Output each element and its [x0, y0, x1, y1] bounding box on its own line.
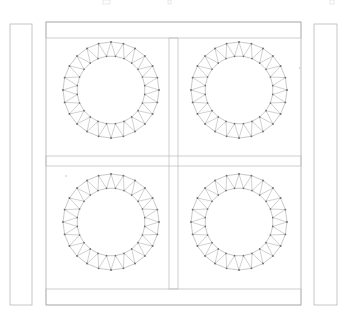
truss-ring-bottom-left-web-a-19 [65, 209, 80, 210]
truss-ring-bottom-left-inner-node-1 [123, 190, 125, 192]
truss-ring-top-right-web-b-6 [273, 86, 287, 90]
truss-ring-bottom-right-outer-node-7 [284, 233, 286, 235]
truss-ring-top-left-web-a-13 [98, 121, 99, 136]
truss-ring-bottom-right-web-a-10 [252, 253, 263, 263]
truss-ring-bottom-left-inner-node-8 [137, 242, 139, 244]
truss-ring-top-right-inner-node-18 [204, 85, 206, 87]
truss-ring-bottom-right-inner-node-2 [259, 194, 261, 196]
truss-ring-bottom-left-inner-node-17 [76, 226, 78, 228]
truss-ring-bottom-left-inner-node-12 [106, 255, 108, 257]
truss-ring-top-left-web-b-2 [124, 48, 135, 58]
truss-ring-top-right-outer-node-8 [280, 113, 282, 115]
truss-ring-bottom-left-web-b-20 [69, 198, 79, 209]
truss-ring-bottom-right-outer-node-19 [192, 209, 194, 211]
truss-ring-top-left-inner-node-13 [97, 121, 99, 123]
truss-ring-bottom-left-inner-node-4 [142, 208, 144, 210]
truss-ring-top-right-web-b-23 [226, 44, 227, 59]
truss-ring-top-left-outer-node-13 [98, 135, 100, 137]
truss-ring-top-left-inner-node-15 [83, 110, 85, 112]
truss-ring-top-left-web-a-16 [69, 103, 79, 114]
truss-ring-bottom-right-outer-node-6 [286, 221, 288, 223]
truss-ring-bottom-left-outer-node-4 [152, 197, 154, 199]
truss-ring-bottom-left [62, 173, 160, 271]
truss-ring-bottom-left-web-a-18 [63, 218, 77, 222]
truss-ring-bottom-left-web-a-10 [124, 253, 135, 263]
truss-ring-top-left-inner-node-0 [115, 55, 117, 57]
truss-ring-bottom-left-outer-node-19 [64, 209, 66, 211]
truss-ring-top-left-web-b-13 [99, 124, 107, 137]
truss-ring-bottom-right-inner-node-15 [211, 242, 213, 244]
truss-ring-bottom-right-inner-node-17 [204, 226, 206, 228]
truss-ring-top-left-inner-node-23 [106, 55, 108, 57]
truss-ring-bottom-left-web-b-22 [87, 180, 90, 195]
truss-ring-top-left-inner-node-7 [142, 102, 144, 104]
truss-ring-top-left-web-b-11 [123, 121, 124, 136]
truss-ring-bottom-right-inner-node-14 [217, 248, 219, 250]
truss-ring-bottom-right-web-a-17 [193, 226, 206, 234]
truss-ring-top-right-web-a-11 [243, 124, 251, 137]
truss-ring-top-left-outer-node-7 [156, 101, 158, 103]
truss-ring-bottom-right-web-a-5 [273, 210, 286, 218]
truss-ring-bottom-left-outer-node-22 [86, 179, 88, 181]
truss-ring-top-right-inner-node-19 [207, 76, 209, 78]
truss-ring-bottom-left-inner-node-9 [131, 248, 133, 250]
truss-ring-top-left-web-b-23 [98, 44, 99, 59]
truss-ring-top-left [62, 41, 160, 139]
truss-ring-top-left-web-a-10 [124, 121, 135, 131]
truss-ring-bottom-left-outer-node-7 [156, 233, 158, 235]
truss-ring-bottom-left-outer-node-5 [156, 209, 158, 211]
truss-ring-top-left-web-b-8 [142, 103, 152, 114]
truss-ring-top-right-outer-node-2 [262, 47, 264, 49]
truss-ring-bottom-left-outer-node-14 [86, 263, 88, 265]
truss-ring-top-left-outer-node-14 [86, 131, 88, 133]
truss-ring-bottom-left-web-b-4 [138, 198, 153, 201]
truss-ring-top-left-web-a-20 [69, 66, 84, 69]
truss-ring-top-right-inner-node-4 [270, 76, 272, 78]
truss-ring-bottom-right-outer-node-14 [214, 263, 216, 265]
truss-ring-bottom-left-web-a-6 [145, 222, 159, 226]
truss-ring-bottom-right-inner-node-19 [207, 208, 209, 210]
truss-ring-top-left-web-a-11 [115, 124, 123, 137]
truss-ring-bottom-left-inner-node-3 [137, 200, 139, 202]
truss-ring-bottom-right-web-b-19 [193, 210, 206, 218]
truss-ring-bottom-right-web-b-10 [260, 249, 263, 264]
truss-ring-bottom-left-inner-node-20 [83, 200, 85, 202]
truss-ring-top-left-inner-node-22 [97, 58, 99, 60]
truss-ring-bottom-left-web-b-7 [145, 226, 158, 234]
truss-ring-top-left-outer-node-16 [68, 113, 70, 115]
truss-ring-bottom-left-web-b-14 [87, 253, 98, 263]
truss-ring-top-right-web-a-6 [273, 90, 287, 94]
truss-ring-bottom-left-inner-node-5 [144, 217, 146, 219]
truss-ring-top-left-web-a-23 [99, 44, 107, 57]
truss-ring-top-right-inner-node-2 [259, 62, 261, 64]
truss-ring-top-right-inner-node-13 [225, 121, 227, 123]
truss-ring-bottom-right-web-a-2 [260, 180, 263, 195]
truss-ring-top-right-web-b-0 [235, 42, 239, 56]
truss-ring-top-left-web-b-19 [65, 78, 78, 86]
truss-ring-bottom-right-outer-node-4 [280, 197, 282, 199]
truss-ring-bottom-right-outer-node-3 [272, 187, 274, 189]
truss-ring-top-left-inner-node-4 [142, 76, 144, 78]
truss-ring-top-left-inner-node-14 [89, 116, 91, 118]
truss-ring-top-right-inner-node-21 [217, 62, 219, 64]
truss-ring-bottom-left-outer-node-17 [64, 233, 66, 235]
truss-ring-top-right-outer-node-22 [214, 47, 216, 49]
truss-ring-bottom-left-web-a-22 [87, 180, 98, 190]
truss-ring-top-right-web-a-23 [227, 44, 235, 57]
truss-ring-bottom-left-outer-node-23 [98, 175, 100, 177]
left-column-outline [10, 24, 32, 305]
truss-ring-top-left-outer-node-6 [158, 89, 160, 91]
truss-ring-top-right-web-a-7 [270, 102, 285, 103]
truss-ring-bottom-left-outer-node-13 [98, 267, 100, 269]
truss-ring-bottom-right-web-b-23 [226, 176, 227, 191]
truss-ring-bottom-left-outer-node-1 [122, 175, 124, 177]
truss-ring-bottom-left-outer-node-18 [62, 221, 64, 223]
truss-ring-top-left-inner-node-8 [137, 110, 139, 112]
truss-ring-bottom-right-outer-node-10 [262, 263, 264, 265]
truss-ring-bottom-right-web-b-18 [191, 222, 205, 226]
truss-ring-top-left-inner-node-17 [76, 94, 78, 96]
truss-ring-bottom-left-inner-node-7 [142, 234, 144, 236]
truss-ring-bottom-left-inner-node-14 [89, 248, 91, 250]
truss-ring-bottom-left-web-a-12 [107, 256, 111, 270]
truss-ring-bottom-left-web-a-7 [142, 234, 157, 235]
